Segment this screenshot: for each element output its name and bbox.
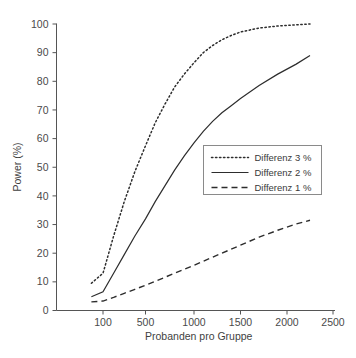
y-tick-label: 80 <box>37 75 49 87</box>
x-axis-ticks <box>103 311 333 315</box>
x-tick-label: 2500 <box>321 316 345 328</box>
y-tick-label: 100 <box>31 18 49 30</box>
series-line-dashed <box>91 220 310 302</box>
x-tick-label: 100 <box>94 316 112 328</box>
y-tick-label: 40 <box>37 190 49 202</box>
x-tick-label: 2000 <box>275 316 299 328</box>
y-tick-label: 90 <box>37 46 49 58</box>
y-axis-title: Power (%) <box>11 142 23 191</box>
legend-label: Differenz 3 % <box>255 152 312 163</box>
x-tick-label: 500 <box>137 316 155 328</box>
y-tick-label: 50 <box>37 161 49 173</box>
y-tick-label: 10 <box>37 275 49 287</box>
y-tick-label: 70 <box>37 104 49 116</box>
x-tick-label: 1500 <box>229 316 253 328</box>
y-tick-label: 0 <box>43 304 49 316</box>
legend-label: Differenz 1 % <box>255 182 312 193</box>
legend-label: Differenz 2 % <box>255 167 312 178</box>
y-axis-ticks <box>53 24 57 311</box>
y-tick-label: 20 <box>37 247 49 259</box>
x-tick-label: 1000 <box>182 316 206 328</box>
x-axis-tick-labels: 1005001000150020002500 <box>94 316 345 328</box>
y-axis-group: 0102030405060708090100 <box>31 18 57 317</box>
y-tick-label: 60 <box>37 132 49 144</box>
x-axis-title: Probanden pro Gruppe <box>145 330 253 342</box>
chart-legend: Differenz 3 %Differenz 2 %Differenz 1 % <box>204 146 322 195</box>
power-analysis-chart: 0102030405060708090100 10050010001500200… <box>0 0 356 358</box>
y-axis-tick-labels: 0102030405060708090100 <box>31 18 49 317</box>
chart-canvas: 0102030405060708090100 10050010001500200… <box>0 0 356 358</box>
y-tick-label: 30 <box>37 218 49 230</box>
x-axis-group: 1005001000150020002500 <box>57 311 345 328</box>
